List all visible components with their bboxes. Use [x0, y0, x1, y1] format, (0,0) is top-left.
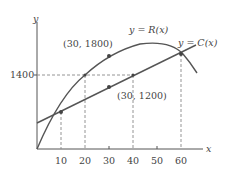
data-points [59, 52, 183, 114]
reference-lines [37, 54, 181, 149]
x-tick-label-60: 60 [175, 155, 187, 166]
cost-label: y = C(x) [177, 37, 218, 48]
x-tick-label-30: 30 [103, 155, 115, 166]
x-tick-label-50: 50 [151, 155, 163, 166]
chart: y x 1400 10 20 30 40 50 60 (30, 1800) (3… [0, 0, 229, 170]
y-tick-label-1400: 1400 [10, 69, 34, 80]
point-label-c30: (30, 1200) [117, 90, 167, 101]
x-axis-label: x [206, 143, 212, 154]
point-label-r30: (30, 1800) [63, 38, 113, 49]
x-tick-label-40: 40 [127, 155, 139, 166]
y-axis-label: y [32, 13, 39, 24]
x-tick-label-20: 20 [79, 155, 91, 166]
x-tick-label-10: 10 [55, 155, 67, 166]
revenue-label: y = R(x) [128, 24, 169, 35]
